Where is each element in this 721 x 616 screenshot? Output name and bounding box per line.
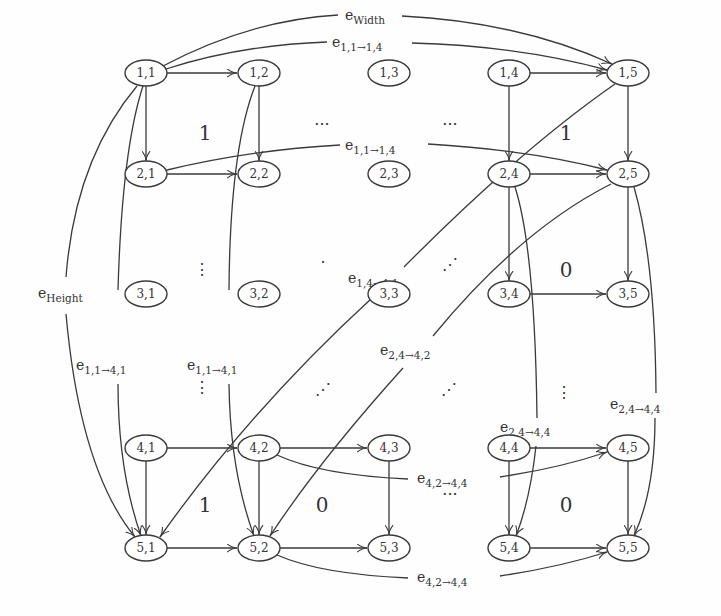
node-label: 4,4 [499, 441, 518, 455]
label-e-width: eWidth [345, 7, 385, 26]
horizontal-ellipsis: ··· [442, 485, 457, 504]
node-label: 1,4 [499, 66, 518, 80]
region-label: 1 [199, 121, 212, 145]
node-4-4: 4,4 [488, 435, 530, 461]
node-label: 4,3 [379, 441, 398, 455]
node-3-2: 3,2 [238, 281, 280, 307]
diagonal-ellipsis: ⋰ [442, 255, 458, 274]
node-label: 3,4 [499, 287, 518, 301]
node-label: 3,2 [249, 287, 268, 301]
label-e-11-14-top: e1,1→1,4 [332, 34, 383, 53]
node-3-5: 3,5 [607, 281, 649, 307]
node-label: 2,5 [618, 167, 637, 181]
label-e-42-44-b: e4,2→4,4 [417, 569, 468, 588]
node-1-1: 1,1 [125, 60, 167, 86]
node-label: 5,3 [379, 541, 398, 555]
label-e-11-14-mid: e1,1→1,4 [345, 137, 396, 156]
region-label: 0 [316, 493, 329, 517]
node-1-4: 1,4 [488, 60, 530, 86]
node-1-2: 1,2 [238, 60, 280, 86]
region-label: 1 [199, 493, 212, 517]
node-label: 5,4 [499, 541, 518, 555]
region-label: 0 [560, 258, 573, 282]
node-label: 1,2 [249, 66, 268, 80]
edge-width-left [163, 15, 338, 66]
node-label: 1,3 [379, 66, 398, 80]
node-label: 5,2 [249, 541, 268, 555]
node-5-1: 5,1 [125, 535, 167, 561]
node-label: 1,1 [136, 66, 155, 80]
vertical-ellipsis: ⋮ [194, 260, 210, 279]
node-label: 3,3 [379, 287, 398, 301]
edge-24-42-top [433, 184, 611, 336]
vertical-ellipsis: ⋮ [556, 383, 572, 402]
edge-height-bottom [66, 314, 135, 537]
node-label: 5,1 [136, 541, 155, 555]
label-e-24-44-b: e2,4→4,4 [610, 396, 661, 415]
node-2-4: 2,4 [488, 161, 530, 187]
label-e-11-41-a: e1,1→4,1 [76, 357, 127, 376]
node-5-5: 5,5 [607, 535, 649, 561]
grid-graph-diagram: eWidth e1,1→1,4 e1,1→1,4 eHeight e1,1→4,… [0, 0, 721, 616]
edge-11-41-a-top [118, 86, 143, 290]
node-label: 4,1 [136, 441, 155, 455]
node-label: 2,1 [136, 167, 155, 181]
label-e-height: eHeight [38, 285, 84, 304]
vertical-ellipsis: ⋮ [194, 378, 210, 397]
node-label: 4,2 [249, 441, 268, 455]
node-label: 2,4 [499, 167, 518, 181]
label-e-11-41-b: e1,1→4,1 [187, 357, 238, 376]
node-label: 3,1 [136, 287, 155, 301]
edge-14-41-bottom [160, 298, 372, 537]
edge-width-right [402, 16, 612, 64]
node-2-3: 2,3 [368, 161, 410, 187]
node-4-2: 4,2 [238, 435, 280, 461]
node-label: 3,5 [618, 287, 637, 301]
node-label: 1,5 [618, 66, 637, 80]
node-1-5: 1,5 [607, 60, 649, 86]
node-5-2: 5,2 [238, 535, 280, 561]
label-e-24-42: e2,4→4,2 [380, 342, 431, 361]
diagonal-ellipsis: ⋰ [441, 380, 457, 399]
node-4-1: 4,1 [125, 435, 167, 461]
edge-11-41-b-top [229, 86, 255, 290]
horizontal-ellipsis: ··· [314, 115, 329, 134]
region-label: 1 [560, 121, 573, 145]
node-label: 2,2 [249, 167, 268, 181]
node-4-5: 4,5 [607, 435, 649, 461]
node-5-4: 5,4 [488, 535, 530, 561]
node-label: 4,5 [618, 441, 637, 455]
node-5-3: 5,3 [368, 535, 410, 561]
node-3-3: 3,3 [368, 281, 410, 307]
horizontal-ellipsis: ··· [442, 115, 457, 134]
node-label: 2,3 [379, 167, 398, 181]
region-label: 0 [560, 493, 573, 517]
node-2-5: 2,5 [607, 161, 649, 187]
edge-height-top [66, 86, 137, 277]
diagonal-ellipsis: ⋰ [315, 380, 331, 399]
node-1-3: 1,3 [368, 60, 410, 86]
node-3-4: 3,4 [488, 281, 530, 307]
node-3-1: 3,1 [125, 281, 167, 307]
node-2-1: 2,1 [125, 161, 167, 187]
dot: · [320, 253, 325, 272]
node-label: 5,5 [618, 541, 637, 555]
node-2-2: 2,2 [238, 161, 280, 187]
node-4-3: 4,3 [368, 435, 410, 461]
